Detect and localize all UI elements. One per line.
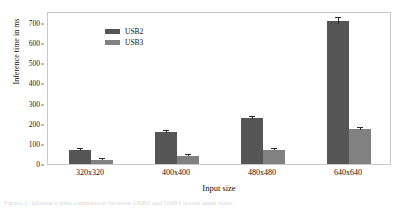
legend-swatch-usb3 xyxy=(105,40,120,45)
figure-container: Inference time in ms 0100200300400500600… xyxy=(0,0,406,210)
x-tick-label-480x480: 480x480 xyxy=(248,168,276,177)
bar-usb3-320x320 xyxy=(91,160,113,164)
error-cap-usb3-640x640 xyxy=(357,127,363,128)
y-tick-label-0: 0 xyxy=(36,161,40,169)
y-tick-label-600: 600 xyxy=(29,40,40,48)
error-bar-usb2-640x640 xyxy=(338,18,339,24)
figure-caption: Figure 1: Inference time comparison betw… xyxy=(4,199,402,207)
y-tick-mark-500 xyxy=(41,64,44,65)
error-bar-usb2-480x480 xyxy=(252,117,253,119)
y-tick-label-200: 200 xyxy=(29,121,40,129)
bar-usb3-400x400 xyxy=(177,156,199,164)
error-bar-usb3-480x480 xyxy=(274,149,275,150)
legend-label-usb2: USB2 xyxy=(125,28,143,36)
x-axis-title: Input size xyxy=(47,183,391,193)
x-tick-label-400x400: 400x400 xyxy=(162,168,190,177)
y-tick-mark-700 xyxy=(41,24,44,25)
y-tick-mark-300 xyxy=(41,104,44,105)
y-tick-label-300: 300 xyxy=(29,101,40,109)
bar-series-group xyxy=(48,13,390,164)
error-cap-usb2-480x480 xyxy=(249,116,255,117)
error-bar-usb3-640x640 xyxy=(360,128,361,130)
x-tick-label-640x640: 640x640 xyxy=(334,168,362,177)
error-cap-usb3-480x480 xyxy=(271,148,277,149)
error-bar-usb3-320x320 xyxy=(102,159,103,160)
legend-label-usb3: USB3 xyxy=(125,39,143,47)
plot-area: USB2 USB3 xyxy=(47,12,391,165)
x-axis-tick-labels: 320x320400x400480x480640x640 xyxy=(47,168,391,182)
bar-usb3-480x480 xyxy=(263,150,285,164)
legend-item-usb2: USB2 xyxy=(105,27,143,36)
bar-usb2-640x640 xyxy=(327,21,349,164)
bar-usb2-320x320 xyxy=(69,150,91,164)
legend-swatch-usb2 xyxy=(105,29,120,34)
bar-usb2-400x400 xyxy=(155,132,177,164)
y-tick-label-100: 100 xyxy=(29,141,40,149)
y-tick-mark-200 xyxy=(41,124,44,125)
y-tick-mark-0 xyxy=(41,165,44,166)
y-axis-ticks: 0100200300400500600700 xyxy=(0,12,45,165)
error-bar-usb2-320x320 xyxy=(80,149,81,151)
legend-item-usb3: USB3 xyxy=(105,38,143,47)
y-tick-mark-100 xyxy=(41,144,44,145)
error-cap-usb2-640x640 xyxy=(335,17,341,18)
chart-legend: USB2 USB3 xyxy=(105,27,143,49)
error-bar-usb2-400x400 xyxy=(166,131,167,133)
error-cap-usb3-400x400 xyxy=(185,154,191,155)
y-tick-label-700: 700 xyxy=(29,20,40,28)
y-tick-mark-400 xyxy=(41,84,44,85)
y-tick-mark-600 xyxy=(41,44,44,45)
y-tick-label-500: 500 xyxy=(29,61,40,69)
bar-usb2-480x480 xyxy=(241,118,263,164)
error-bar-usb3-400x400 xyxy=(188,155,189,156)
error-cap-usb2-320x320 xyxy=(77,148,83,149)
error-cap-usb2-400x400 xyxy=(163,130,169,131)
x-tick-label-320x320: 320x320 xyxy=(76,168,104,177)
bar-usb3-640x640 xyxy=(349,129,371,164)
y-tick-label-400: 400 xyxy=(29,81,40,89)
error-cap-usb3-320x320 xyxy=(99,158,105,159)
